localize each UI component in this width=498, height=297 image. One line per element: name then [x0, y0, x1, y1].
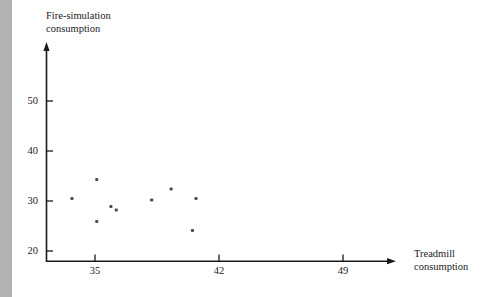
x-tick-label-35: 35 — [80, 265, 110, 276]
data-point — [109, 205, 112, 208]
data-point — [70, 197, 73, 200]
plot-area: Fire-simulation consumption Treadmill co… — [0, 0, 498, 297]
data-point — [150, 198, 153, 201]
y-tick-label-50: 50 — [12, 95, 38, 106]
data-point-group — [70, 178, 197, 232]
x-tick-label-42: 42 — [204, 265, 234, 276]
x-tick-label-49: 49 — [328, 265, 358, 276]
y-tick-label-20: 20 — [12, 245, 38, 256]
y-axis-title: Fire-simulation consumption — [46, 10, 111, 35]
data-point — [191, 229, 194, 232]
data-point — [170, 187, 173, 190]
data-point — [194, 197, 197, 200]
x-axis-arrow-icon — [387, 258, 396, 264]
data-point — [95, 178, 98, 181]
x-axis-title: Treadmill consumption — [414, 248, 468, 273]
data-point — [95, 220, 98, 223]
y-tick-label-40: 40 — [12, 145, 38, 156]
scatter-plot-figure: Fire-simulation consumption Treadmill co… — [0, 0, 498, 297]
data-point — [115, 208, 118, 211]
y-axis-arrow-icon — [43, 42, 49, 51]
y-tick-label-30: 30 — [12, 195, 38, 206]
